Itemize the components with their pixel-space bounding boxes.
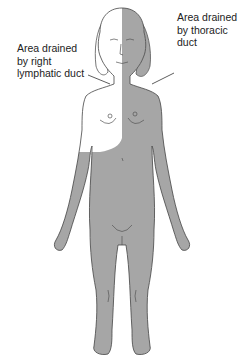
label-thoracic-duct: Area drained by thoracic duct bbox=[177, 11, 237, 49]
label-line: Area drained bbox=[17, 42, 84, 55]
leader-line-thoracic bbox=[152, 73, 174, 84]
label-line: lymphatic duct bbox=[17, 67, 84, 80]
label-line: Area drained bbox=[177, 11, 237, 24]
label-line: by right bbox=[17, 55, 84, 68]
label-line: duct bbox=[177, 36, 237, 49]
leader-line-right-lymphatic bbox=[88, 75, 110, 84]
label-right-lymphatic-duct: Area drained by right lymphatic duct bbox=[17, 42, 84, 80]
label-line: by thoracic bbox=[177, 24, 237, 37]
